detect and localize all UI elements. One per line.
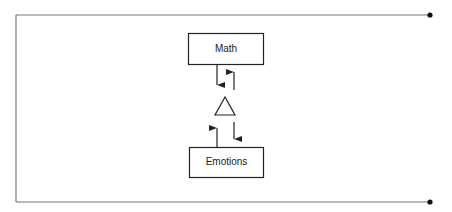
emotions-label: Emotions bbox=[189, 156, 264, 167]
bottom-endpoint-dot bbox=[427, 199, 432, 204]
mediator-triangle bbox=[215, 97, 235, 115]
top-endpoint-dot bbox=[427, 12, 432, 17]
math-label: Math bbox=[188, 43, 264, 54]
diagram-canvas bbox=[0, 0, 452, 212]
